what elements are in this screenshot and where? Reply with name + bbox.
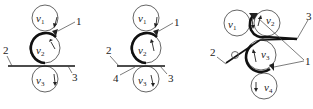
roll-v2-label: v2 — [138, 44, 147, 58]
leader-1 — [159, 23, 173, 31]
arrowhead-icon — [254, 88, 258, 92]
callout-3: 3 — [168, 72, 174, 84]
roll-v1-label: v1 — [138, 12, 147, 26]
panel-a: v1 v2 v3 1 2 3 — [3, 5, 82, 92]
arrowhead-icon — [150, 39, 154, 43]
rotation-arrow-v2 — [51, 42, 55, 49]
roll-v3 — [133, 66, 159, 92]
roll-v4-label: v4 — [264, 81, 273, 95]
rotation-arrow-v3 — [151, 75, 153, 84]
coating-film — [31, 33, 56, 63]
roll-coating-diagram: v1 v2 v3 1 2 3 v1 v2 v3 1 2 — [0, 0, 313, 109]
roll-v3-label: v3 — [261, 48, 270, 62]
leader-3 — [297, 20, 308, 39]
roll-v2-label: v2 — [36, 44, 45, 58]
rotation-arrow-v2 — [152, 42, 154, 51]
substrate-web-exit — [260, 39, 297, 40]
leader-1b — [274, 61, 304, 67]
rotation-arrow-v3 — [254, 52, 256, 62]
callout-2: 2 — [3, 44, 9, 56]
panel-b: v1 v2 v3 1 2 3 4 — [106, 5, 180, 92]
callout-1: 1 — [76, 15, 82, 27]
rotation-arrow-v3 — [54, 74, 55, 83]
roll-v3-label: v3 — [138, 74, 147, 88]
panel-c: v1 v2 v3 v4 3 2 1 — [210, 10, 312, 99]
callout-2: 2 — [106, 44, 112, 56]
roll-v1-label: v1 — [228, 18, 237, 32]
leader-3 — [160, 66, 167, 74]
arrowhead-icon — [252, 49, 256, 53]
callout-3: 3 — [72, 71, 78, 83]
arrowhead-icon — [151, 83, 155, 87]
callout-1: 1 — [174, 16, 180, 28]
roll-v2-label: v2 — [266, 14, 275, 28]
leader-4 — [120, 67, 135, 75]
leader-2 — [7, 56, 12, 66]
roll-v3-label: v3 — [36, 74, 45, 88]
callout-2: 2 — [210, 46, 216, 58]
leader-1 — [58, 22, 75, 31]
roll-v1-label: v1 — [36, 12, 45, 26]
leader-2 — [217, 57, 226, 64]
callout-3: 3 — [306, 10, 312, 22]
leader-2 — [110, 56, 119, 66]
arrowhead-icon — [49, 39, 53, 42]
callout-1: 1 — [305, 55, 311, 67]
callout-4: 4 — [113, 72, 119, 84]
substrate-web — [226, 40, 260, 63]
